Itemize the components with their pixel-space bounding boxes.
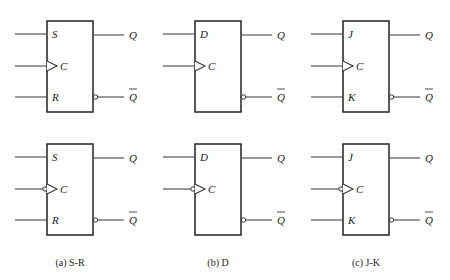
pin-label-d: D (199, 151, 208, 163)
output-inversion-bubble-icon (241, 218, 245, 222)
output-inversion-bubble-icon (241, 95, 245, 99)
flip-flop-c-positive-edge: JCKQQ (311, 21, 433, 112)
output-label-q: Q (425, 152, 433, 164)
output-label-q: Q (425, 29, 433, 41)
output-label-q-bar: Q (129, 214, 137, 226)
flip-flop-diagram: SCRQQSCRQQ(a) S-RDCQQDCQQ(b) DJCKQQJCKQQ… (0, 0, 450, 280)
pin-label-c: C (208, 183, 216, 195)
pin-label-c: C (356, 60, 364, 72)
output-label-q-bar: Q (425, 214, 433, 226)
panel-caption-a: (a) S-R (55, 257, 84, 269)
pin-label-d: D (199, 28, 208, 40)
output-inversion-bubble-icon (93, 95, 97, 99)
flip-flop-b-positive-edge: DCQQ (163, 21, 285, 112)
pin-label-c: C (60, 60, 68, 72)
flip-flop-a-positive-edge: SCRQQ (15, 21, 137, 112)
pin-label-c: C (60, 183, 68, 195)
output-inversion-bubble-icon (93, 218, 97, 222)
output-inversion-bubble-icon (389, 218, 393, 222)
output-label-q-bar: Q (277, 214, 285, 226)
pin-label-k: K (347, 91, 356, 103)
clock-inversion-bubble-icon (339, 187, 343, 191)
pin-label-s: S (52, 151, 58, 163)
flip-flop-a-negative-edge: SCRQQ (15, 144, 137, 235)
output-label-q-bar: Q (277, 91, 285, 103)
pin-label-r: R (51, 214, 59, 226)
output-label-q-bar: Q (129, 91, 137, 103)
pin-label-c: C (208, 60, 216, 72)
panel-a: SCRQQSCRQQ(a) S-R (15, 21, 137, 269)
clock-inversion-bubble-icon (191, 187, 195, 191)
panel-caption-b: (b) D (207, 257, 228, 269)
pin-label-c: C (356, 183, 364, 195)
panel-caption-c: (c) J-K (352, 257, 381, 269)
panel-c: JCKQQJCKQQ(c) J-K (311, 21, 433, 269)
flip-flop-b-negative-edge: DCQQ (163, 144, 285, 235)
output-label-q: Q (277, 152, 285, 164)
flip-flop-c-negative-edge: JCKQQ (311, 144, 433, 235)
pin-label-k: K (347, 214, 356, 226)
clock-inversion-bubble-icon (43, 187, 47, 191)
output-label-q: Q (129, 152, 137, 164)
pin-label-r: R (51, 91, 59, 103)
output-inversion-bubble-icon (389, 95, 393, 99)
output-label-q-bar: Q (425, 91, 433, 103)
output-label-q: Q (277, 29, 285, 41)
pin-label-s: S (52, 28, 58, 40)
flip-flop-symbols: SCRQQSCRQQ(a) S-RDCQQDCQQ(b) DJCKQQJCKQQ… (0, 0, 450, 280)
panel-b: DCQQDCQQ(b) D (163, 21, 285, 269)
output-label-q: Q (129, 29, 137, 41)
